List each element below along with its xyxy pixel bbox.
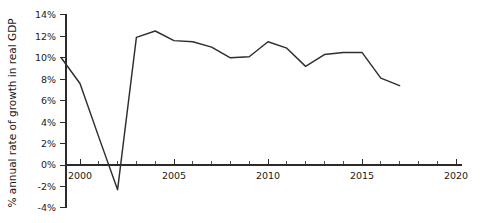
gdp-growth-series-line [61, 31, 399, 190]
x-axis-tick-marks [80, 159, 456, 165]
x-axis-tick-labels: 20002005201020152020 [68, 170, 468, 181]
chart-canvas: 14%12%10%8%6%4%2%0%-2%-4% 20002005201020… [0, 0, 480, 223]
x-tick-label: 2000 [68, 170, 92, 181]
x-tick-label: 2020 [444, 170, 468, 181]
y-tick-label: 8% [41, 74, 56, 85]
y-axis-tick-marks [60, 15, 66, 208]
y-tick-label: 10% [35, 52, 56, 63]
y-tick-label: 2% [41, 138, 56, 149]
y-tick-label: -2% [38, 181, 57, 192]
x-tick-label: 2015 [350, 170, 374, 181]
y-axis-title: % annual rate of growth in real GDP [6, 18, 18, 207]
y-tick-label: 14% [35, 9, 56, 20]
x-tick-label: 2005 [162, 170, 186, 181]
y-tick-label: 0% [41, 159, 56, 170]
y-tick-label: -4% [38, 202, 57, 213]
y-tick-label: 4% [41, 117, 56, 128]
gdp-growth-line-chart: 14%12%10%8%6%4%2%0%-2%-4% 20002005201020… [0, 0, 480, 223]
y-axis-tick-labels: 14%12%10%8%6%4%2%0%-2%-4% [35, 9, 56, 213]
y-tick-label: 12% [35, 31, 56, 42]
x-tick-label: 2010 [256, 170, 280, 181]
y-tick-label: 6% [41, 95, 56, 106]
